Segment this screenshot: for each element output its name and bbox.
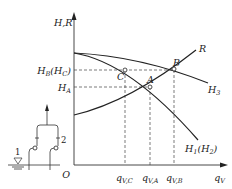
curve-h3: [74, 53, 208, 83]
water-level-icon: [14, 158, 22, 164]
origin-label: O: [62, 169, 70, 180]
suction-pipe-1: [29, 148, 33, 170]
x-tick-qva: qV,A: [142, 172, 159, 185]
parallel-pump-inset: 1 2: [8, 104, 66, 170]
outlet-arrow-icon: [45, 104, 49, 111]
label-a: A: [146, 74, 154, 85]
label-2: 2: [61, 135, 66, 145]
x-tick-qvb: qV,B: [166, 172, 183, 185]
x-tick-qvc: qV,C: [116, 172, 133, 185]
pump-curve-diagram: H,R qV O HB(HC) HA qV,C qV,A qV,B C A B …: [0, 0, 232, 189]
suction-pipe-2: [50, 148, 54, 170]
pump-1-icon: [33, 146, 37, 150]
y-tick-ha: HA: [57, 82, 71, 95]
y-axis-label: H,R: [53, 17, 72, 28]
label-c: C: [117, 71, 125, 82]
label-1: 1: [15, 147, 20, 157]
x-axis-arrow-icon: [220, 163, 228, 168]
label-h3: H3: [207, 84, 220, 97]
pump-2-icon: [54, 146, 58, 150]
y-tick-hb-hc: HB(HC): [36, 65, 71, 78]
point-a: [148, 85, 152, 89]
label-b: B: [172, 57, 180, 68]
label-r: R: [198, 43, 206, 54]
x-axis-label: qV: [214, 172, 226, 185]
label-h1h2: H1(H2): [184, 143, 218, 156]
manifold-pipe: [37, 125, 58, 146]
